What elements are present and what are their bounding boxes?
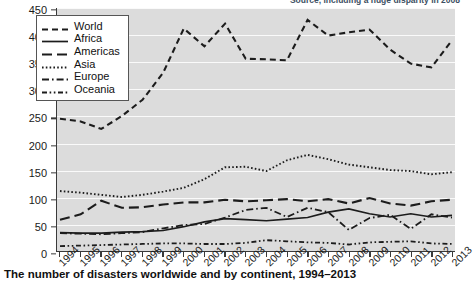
- series-line-africa: [60, 209, 452, 233]
- legend-label: Americas: [74, 46, 120, 57]
- figure-caption: The number of disasters worldwide and by…: [4, 268, 356, 280]
- legend-swatch-icon: [42, 33, 68, 44]
- legend-label: Europe: [74, 71, 109, 82]
- legend-swatch-icon: [42, 46, 68, 57]
- legend-item-africa[interactable]: Africa: [42, 33, 120, 46]
- plot-wrapper: 050100150200250300350400450 199419951996…: [0, 6, 466, 256]
- legend-item-asia[interactable]: Asia: [42, 58, 120, 71]
- y-tick-label: 0: [41, 248, 47, 260]
- legend-label: Asia: [74, 59, 95, 70]
- chart-legend: WorldAfricaAmericasAsiaEuropeOceania: [36, 15, 129, 101]
- legend-item-americas[interactable]: Americas: [42, 45, 120, 58]
- legend-swatch-icon: [42, 84, 68, 95]
- legend-swatch-icon: [42, 71, 68, 82]
- legend-swatch-icon: [42, 21, 68, 32]
- legend-label: World: [74, 21, 103, 32]
- legend-label: Oceania: [74, 84, 115, 95]
- source-note-text: Source, including a huge disparity in 20…: [0, 0, 466, 5]
- y-tick-label: 250: [29, 112, 47, 124]
- y-tick-label: 200: [29, 140, 47, 152]
- y-tick-label: 100: [29, 194, 47, 206]
- y-tick-label: 150: [29, 167, 47, 179]
- legend-item-world[interactable]: World: [42, 20, 120, 33]
- legend-swatch-icon: [42, 59, 68, 70]
- legend-label: Africa: [74, 33, 102, 44]
- y-tick-label: 50: [35, 221, 47, 233]
- series-line-asia: [60, 155, 452, 197]
- legend-item-europe[interactable]: Europe: [42, 70, 120, 83]
- legend-item-oceania[interactable]: Oceania: [42, 83, 120, 96]
